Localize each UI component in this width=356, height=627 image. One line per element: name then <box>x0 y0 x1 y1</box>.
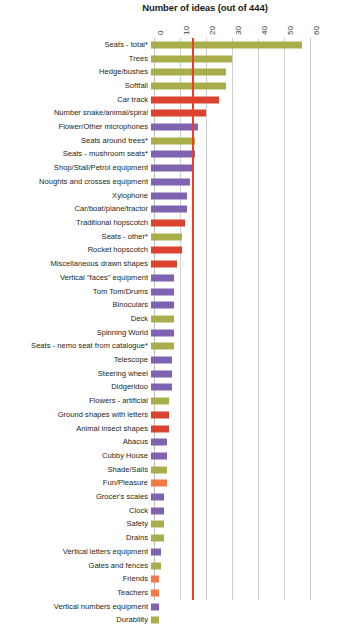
category-label: Cubby House <box>0 452 151 460</box>
bar-row: Car track <box>0 93 356 107</box>
bar-row: Ground shapes with letters <box>0 408 356 422</box>
bar <box>151 151 195 158</box>
category-label: Spinning World <box>0 329 151 337</box>
bar-cell <box>151 490 356 504</box>
bar-cell <box>151 93 356 107</box>
bar-row: Fun/Pleasure <box>0 477 356 491</box>
bar-cell <box>151 559 356 573</box>
category-label: Fun/Pleasure <box>0 479 151 487</box>
bar <box>151 261 177 268</box>
bar-row: Shop/Stall/Petrol equipment <box>0 161 356 175</box>
category-label: Binoculars <box>0 301 151 309</box>
bar-cell <box>151 504 356 518</box>
bar-row: Flower/Other microphones <box>0 120 356 134</box>
category-label: Tom Tom/Drums <box>0 288 151 296</box>
category-label: Shop/Stall/Petrol equipment <box>0 164 151 172</box>
bar-cell <box>151 79 356 93</box>
bar <box>151 137 195 144</box>
bar-row: Seats - other* <box>0 230 356 244</box>
category-label: Seats - mushroom seats* <box>0 150 151 158</box>
bar <box>151 439 167 446</box>
x-tick-10: 10 <box>183 26 191 35</box>
bar-cell <box>151 271 356 285</box>
bar <box>151 562 161 569</box>
bar-row: Flowers - artificial <box>0 394 356 408</box>
bar-row: Vertical letters equipment <box>0 545 356 559</box>
bar-row: Vertical "faces" equipment <box>0 271 356 285</box>
bar <box>151 302 174 309</box>
bar-row: Telescope <box>0 353 356 367</box>
bar-cell <box>151 586 356 600</box>
bar-cell <box>151 189 356 203</box>
bar <box>151 288 174 295</box>
bar-cell <box>151 408 356 422</box>
bar <box>151 124 198 131</box>
bar <box>151 425 169 432</box>
bar-cell <box>151 230 356 244</box>
category-label: Abacus <box>0 438 151 446</box>
bar <box>151 576 159 583</box>
bar-row: Noughts and crosses equipment <box>0 175 356 189</box>
bar-cell <box>151 518 356 532</box>
category-label: Xylophone <box>0 192 151 200</box>
bar <box>151 165 193 172</box>
bar-cell <box>151 38 356 52</box>
category-label: Car/boat/plane/tractor <box>0 205 151 213</box>
category-label: Trees <box>0 55 151 63</box>
bar <box>151 247 182 254</box>
x-axis-tick-labels: 0102030405060 <box>0 15 356 37</box>
bar-cell <box>151 148 356 162</box>
bar-cell <box>151 394 356 408</box>
bar <box>151 233 182 240</box>
bar <box>151 357 172 364</box>
bar <box>151 452 167 459</box>
bar-cell <box>151 531 356 545</box>
bar <box>151 466 167 473</box>
bar-row: Friends <box>0 572 356 586</box>
category-label: Steering wheel <box>0 370 151 378</box>
category-label: Friends <box>0 575 151 583</box>
bar <box>151 521 164 528</box>
bar-row: Rocket hopscotch <box>0 244 356 258</box>
bar-cell <box>151 257 356 271</box>
bar-cell <box>151 545 356 559</box>
category-label: Gates and fences <box>0 562 151 570</box>
bar-row: Traditional hopscotch <box>0 216 356 230</box>
category-label: Vertical "faces" equipment <box>0 274 151 282</box>
bar <box>151 69 226 76</box>
bar-cell <box>151 202 356 216</box>
bar-cell <box>151 463 356 477</box>
bar-cell <box>151 353 356 367</box>
bar-cell <box>151 435 356 449</box>
x-tick-20: 20 <box>209 26 217 35</box>
category-label: Teachers <box>0 589 151 597</box>
bar-cell <box>151 134 356 148</box>
chart-title: Number of ideas (out of 444) <box>0 2 356 13</box>
category-label: Flower/Other microphones <box>0 123 151 131</box>
bar <box>151 343 174 350</box>
bar-cell <box>151 339 356 353</box>
bar-cell <box>151 65 356 79</box>
category-label: Safety <box>0 520 151 528</box>
bar <box>151 589 159 596</box>
category-label: Seats - total* <box>0 41 151 49</box>
bar-cell <box>151 285 356 299</box>
category-label: Shade/Sails <box>0 466 151 474</box>
bar <box>151 480 167 487</box>
bar-cell <box>151 572 356 586</box>
bar <box>151 315 174 322</box>
category-label: Durability <box>0 616 151 624</box>
bar-row: Softfall <box>0 79 356 93</box>
bar-row: Shade/Sails <box>0 463 356 477</box>
bar <box>151 617 159 624</box>
bar-row: Hedge/bushes <box>0 65 356 79</box>
category-label: Seats - other* <box>0 233 151 241</box>
category-label: Ground shapes with letters <box>0 411 151 419</box>
category-label: Vertical letters equipment <box>0 548 151 556</box>
bar-row: Miscellaneous drawn shapes <box>0 257 356 271</box>
bar-row: Safety <box>0 518 356 532</box>
x-tick-50: 50 <box>287 26 295 35</box>
bar-row: Animal insect shapes <box>0 422 356 436</box>
category-label: Drains <box>0 534 151 542</box>
